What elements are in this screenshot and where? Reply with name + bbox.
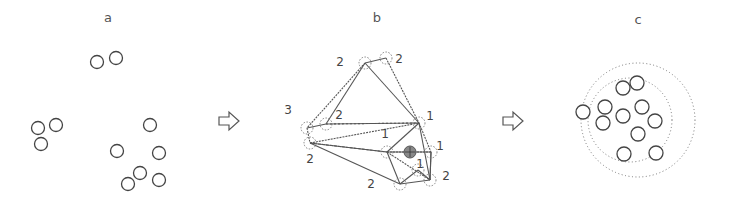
data-point-circle [616,81,630,95]
arrow-a-to-b-icon [219,112,239,130]
graph-edge [310,123,419,143]
data-point-circle [35,138,48,151]
node-degree-label: 1 [381,127,389,141]
arrow-b-to-c-icon [503,112,523,130]
graph-edge [419,123,431,152]
data-point-circle [631,127,645,141]
graph-edge [365,58,386,63]
data-point-circle [616,109,630,123]
data-point-circle [648,114,662,128]
panel-b-graph: 22322111122 [284,52,450,191]
node-degree-label: 1 [436,139,444,153]
data-point-circle [617,147,631,161]
graph-edge [307,128,310,143]
node-degree-label: 2 [336,55,344,69]
data-point-circle [153,147,166,160]
node-degree-label: 3 [284,103,292,117]
panel-label-c: c [634,12,641,27]
data-point-circle [110,52,123,65]
graph-edge [386,58,419,123]
data-point-circle [50,119,63,132]
node-degree-label: 1 [416,157,424,171]
node-degree-label: 1 [426,109,434,123]
data-point-circle [649,146,663,160]
panel-c-clustered-points [576,63,695,177]
graph-edge [326,63,365,124]
data-point-circle [576,105,590,119]
panel-a-scattered-points [32,52,166,191]
data-point-circle [598,100,612,114]
data-point-circle [630,76,644,90]
graph-edge [430,152,431,180]
data-point-circle [111,145,124,158]
node-degree-label: 2 [395,52,403,66]
data-point-circle [122,178,135,191]
data-point-circle [32,122,45,135]
data-point-circle [144,119,157,132]
node-degree-label: 2 [306,152,314,166]
node-degree-label: 2 [442,169,450,183]
node-degree-label: 2 [335,108,343,122]
data-point-circle [635,100,649,114]
node-degree-label: 2 [367,177,375,191]
data-point-circle [134,167,147,180]
panel-label-b: b [373,10,381,25]
panel-label-a: a [104,10,112,25]
graph-edge [310,143,400,184]
data-point-circle [91,56,104,69]
clustering-diagram: abc 22322111122 [0,0,729,208]
data-point-circle [153,174,166,187]
data-point-circle [596,116,610,130]
graph-edge [365,63,419,123]
